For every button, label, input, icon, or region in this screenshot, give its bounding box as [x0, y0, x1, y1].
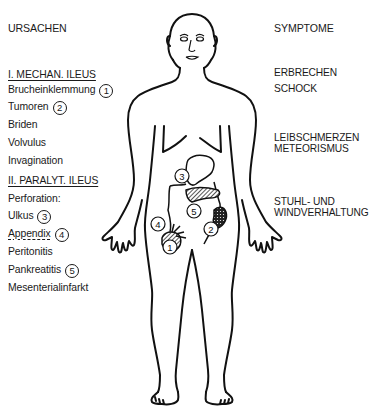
svg-text:3: 3	[179, 171, 184, 182]
body-left-outline	[103, 68, 180, 252]
human-body-figure: 3 5 4 2 1	[0, 0, 383, 415]
marker-2: 2	[204, 222, 218, 236]
svg-text:4: 4	[155, 219, 160, 230]
marker-1: 1	[163, 240, 177, 254]
marker-3: 3	[175, 169, 189, 183]
stomach	[186, 155, 214, 185]
svg-text:5: 5	[191, 206, 196, 217]
head-outline	[168, 14, 215, 68]
svg-text:1: 1	[167, 242, 172, 253]
marker-5: 5	[187, 204, 201, 218]
figure-markers: 3 5 4 2 1	[151, 169, 218, 254]
svg-text:2: 2	[208, 224, 213, 235]
marker-4: 4	[151, 217, 165, 231]
